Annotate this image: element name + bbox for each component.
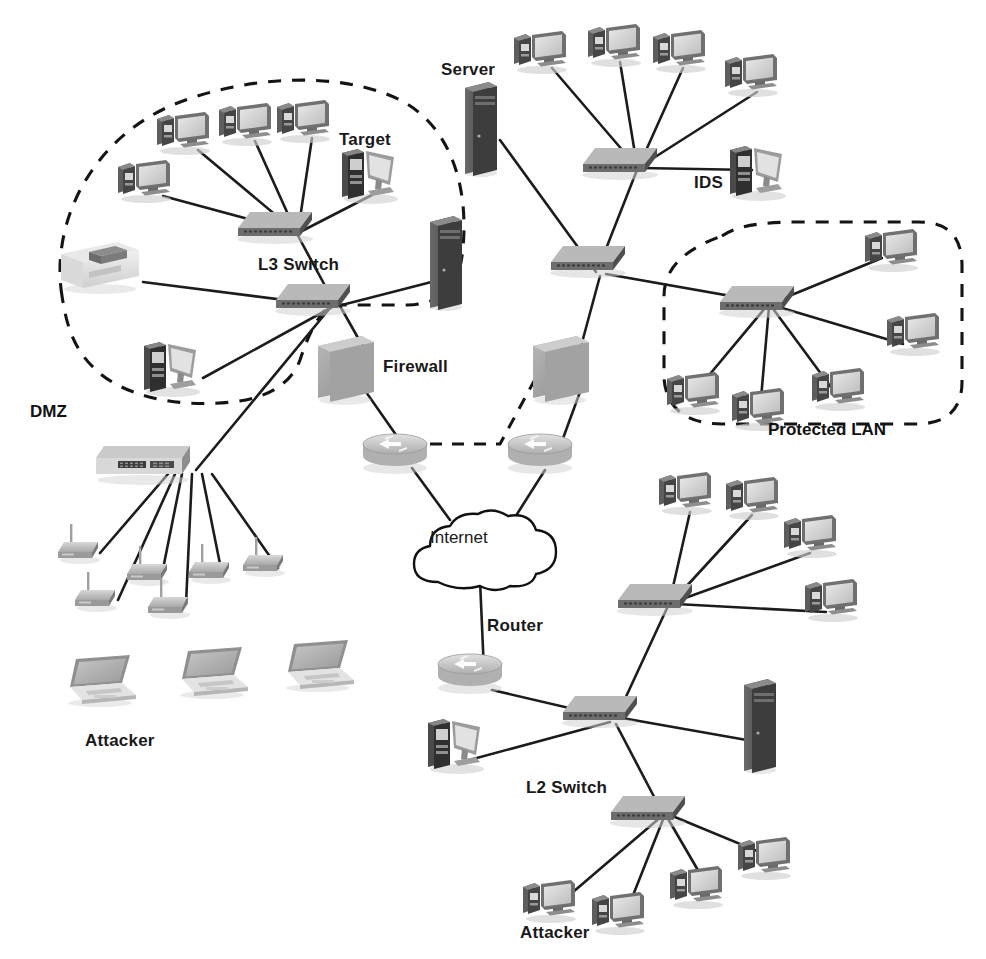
node-dmz-pc-3[interactable] <box>219 103 272 146</box>
node-ap-1[interactable] <box>58 524 100 564</box>
node-attacker-pc-3[interactable] <box>670 866 723 909</box>
link-midsw-ws <box>462 722 610 762</box>
node-lan-pc-2[interactable] <box>887 313 940 356</box>
label-attacker-bottom: Attacker <box>520 923 590 943</box>
link-l3-apswitch <box>196 308 330 470</box>
node-mid-switch[interactable] <box>562 696 638 728</box>
node-core-pc-3[interactable] <box>653 30 706 73</box>
link-firewallR-distsw <box>580 276 600 350</box>
link-apsw-ap6 <box>212 474 278 568</box>
node-core-pc-1[interactable] <box>514 31 567 74</box>
link-routerL-internet <box>412 468 450 520</box>
node-dmz-pc-4[interactable] <box>277 100 330 143</box>
node-l3-switch[interactable] <box>275 284 351 316</box>
link-dmzws-l3 <box>203 306 334 378</box>
link-lansw-pc2 <box>772 305 903 344</box>
node-ap-2[interactable] <box>75 572 117 612</box>
link-brsw-pc4 <box>676 604 826 612</box>
node-dmz-workstation[interactable] <box>144 342 200 397</box>
link-apsw-ap3 <box>162 474 182 574</box>
network-diagram-canvas: Target Server IDS L3 Switch Firewall Int… <box>0 0 986 959</box>
node-firewall-right[interactable] <box>533 336 589 405</box>
node-lan-pc-5[interactable] <box>812 368 865 411</box>
node-l2-switch[interactable] <box>610 796 686 828</box>
node-attacker-pc-1[interactable] <box>523 880 576 923</box>
node-dmz-top-switch[interactable] <box>237 212 313 244</box>
node-dist-switch[interactable] <box>550 246 626 278</box>
node-router-bottom[interactable] <box>438 654 502 694</box>
label-firewall: Firewall <box>383 357 448 377</box>
node-internet-cloud[interactable] <box>414 510 556 590</box>
node-core-pc-2[interactable] <box>588 24 641 67</box>
node-br-pc-3[interactable] <box>784 515 837 558</box>
node-router-left[interactable] <box>363 434 427 474</box>
node-ap-5[interactable] <box>189 544 231 584</box>
node-dmz-printer[interactable] <box>61 242 139 294</box>
label-protected-lan: Protected LAN <box>768 420 886 440</box>
node-br-pc-2[interactable] <box>726 477 779 520</box>
node-firewall-left[interactable] <box>318 336 374 405</box>
node-core-pc-4[interactable] <box>725 54 778 97</box>
node-router-right[interactable] <box>508 434 572 474</box>
label-server: Server <box>441 60 495 80</box>
node-target[interactable] <box>342 149 398 204</box>
node-main-server[interactable] <box>465 82 497 177</box>
label-attacker-left: Attacker <box>85 731 155 751</box>
node-br-pc-4[interactable] <box>805 579 858 622</box>
label-l3-switch: L3 Switch <box>258 255 339 275</box>
link-apsw-ap4 <box>186 474 192 604</box>
node-br-switch[interactable] <box>617 584 693 616</box>
node-dmz-pc-2[interactable] <box>157 112 210 155</box>
node-attacker-pc-2[interactable] <box>592 892 645 935</box>
node-br-pc-1[interactable] <box>659 472 712 515</box>
node-ap-switch[interactable] <box>96 446 190 485</box>
label-ids: IDS <box>694 173 723 193</box>
label-router: Router <box>487 616 543 636</box>
node-ap-6[interactable] <box>243 537 285 577</box>
network-links <box>100 62 903 908</box>
node-attacker-pc-4[interactable] <box>738 837 791 880</box>
node-attacker-laptop-2[interactable] <box>180 647 248 699</box>
node-ap-3[interactable] <box>127 546 169 586</box>
label-target: Target <box>339 130 391 150</box>
node-core-switch[interactable] <box>582 148 658 180</box>
label-l2-switch: L2 Switch <box>526 778 607 798</box>
network-nodes <box>58 24 940 935</box>
link-midsw-server <box>622 718 758 742</box>
node-mid-server[interactable] <box>744 679 776 774</box>
node-ids[interactable] <box>730 146 786 201</box>
node-lan-switch[interactable] <box>719 286 795 318</box>
node-dmz-server[interactable] <box>430 216 462 311</box>
label-dmz: DMZ <box>30 402 67 422</box>
node-lan-pc-1[interactable] <box>865 229 918 272</box>
node-attacker-laptop-1[interactable] <box>68 655 136 707</box>
node-mid-workstation[interactable] <box>428 719 484 774</box>
node-attacker-laptop-3[interactable] <box>286 640 354 692</box>
link-apsw-ap5 <box>202 474 222 574</box>
label-internet: Internet <box>430 528 488 548</box>
diagram-svg <box>0 0 986 959</box>
node-dmz-pc-1[interactable] <box>118 160 171 203</box>
